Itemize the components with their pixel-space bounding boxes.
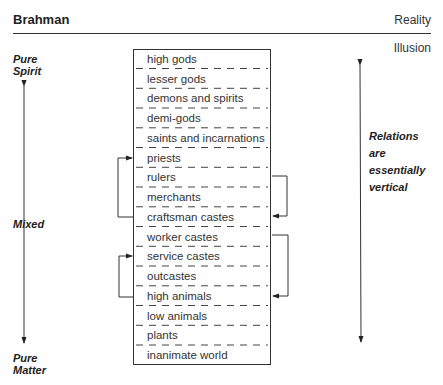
level-priests: priests: [147, 152, 181, 164]
bracket-craftsman-to-priests: [118, 158, 133, 217]
level-merchants: merchants: [147, 191, 201, 203]
bracket-highanimals-to-service: [119, 256, 133, 297]
level-low-animals: low animals: [147, 310, 207, 322]
level-outcastes: outcastes: [147, 270, 196, 282]
level-plants: plants: [147, 329, 178, 341]
level-worker-castes: worker castes: [147, 231, 218, 243]
level-rulers: rulers: [147, 171, 176, 183]
level-craftsman-castes: craftsman castes: [147, 211, 234, 223]
level-high-animals: high animals: [147, 290, 212, 302]
vertical-relations-axis: [360, 65, 361, 342]
level-high-gods: high gods: [147, 53, 197, 65]
level-demons-spirits: demons and spirits: [147, 92, 244, 104]
level-inanimate-world: inanimate world: [147, 349, 228, 361]
level-demi-gods: demi-gods: [147, 112, 201, 124]
hierarchy-box: high gods lesser gods demons and spirits…: [133, 49, 271, 365]
bracket-worker-to-highanimals: [272, 235, 288, 296]
level-lesser-gods: lesser gods: [147, 73, 206, 85]
level-saints: saints and incarnations: [147, 132, 265, 144]
level-service-castes: service castes: [147, 250, 220, 262]
bracket-rulers-to-craftsman: [272, 176, 287, 216]
